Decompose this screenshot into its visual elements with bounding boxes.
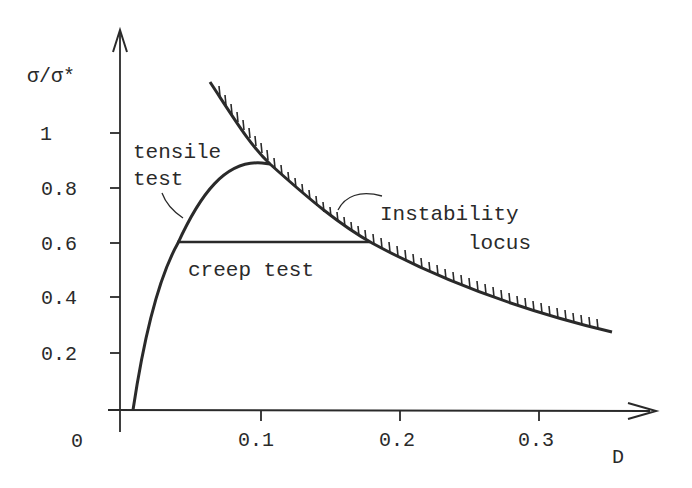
ytick-label-0.8: 0.8 [41,178,77,201]
x-ticks [261,411,539,421]
y-axis-label: σ/σ* [27,65,75,88]
tensile-leader [162,193,183,218]
origin-label: 0 [71,430,83,453]
x-axis-label: D [612,446,624,469]
tensile-label-line1: tensile [133,141,221,164]
xtick-label-0.2: 0.2 [379,429,415,452]
ytick-label-0.2: 0.2 [41,343,77,366]
creep-label: creep test [188,259,314,282]
chart: σ/σ* 1 0.8 0.6 0.4 0.2 0 0.1 0.2 0.3 D [0,0,692,488]
x-axis [108,410,650,411]
y-ticks [110,133,120,353]
instability-label-line1: Instability [380,203,519,226]
ytick-label-1: 1 [40,123,52,146]
instability-leader [338,194,382,210]
ytick-label-0.6: 0.6 [41,233,77,256]
xtick-label-0.3: 0.3 [518,429,554,452]
tensile-test-curve [133,163,270,410]
tensile-label-line2: test [133,168,183,191]
ytick-label-0.4: 0.4 [41,287,77,310]
instability-label-line2: locus [468,232,531,255]
xtick-label-0.1: 0.1 [238,429,274,452]
